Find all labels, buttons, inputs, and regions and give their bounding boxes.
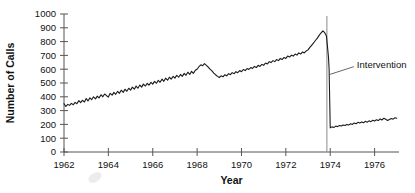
x-tick-label: 1966 (142, 159, 163, 170)
y-tick-label: 800 (40, 36, 56, 47)
x-axis-title: Year (220, 174, 242, 186)
x-tick-label: 1974 (320, 159, 341, 170)
x-tick-label: 1972 (275, 159, 296, 170)
x-tick-label: 1970 (231, 159, 252, 170)
y-tick-label: 400 (40, 91, 56, 102)
intervention-label: Intervention (357, 59, 407, 70)
y-tick-label: 900 (40, 22, 56, 33)
y-tick-label: 100 (40, 133, 56, 144)
annotation-leader-line (329, 67, 354, 75)
line-chart: 01002003004005006007008009001000 1962196… (0, 0, 415, 193)
y-axis-ticks: 01002003004005006007008009001000 (35, 8, 68, 157)
x-tick-label: 1964 (98, 159, 119, 170)
y-tick-label: 200 (40, 119, 56, 130)
y-tick-label: 700 (40, 50, 56, 61)
x-tick-label: 1976 (364, 159, 385, 170)
y-axis-title: Number of Calls (4, 43, 16, 124)
x-tick-label: 1968 (187, 159, 208, 170)
y-tick-label: 600 (40, 64, 56, 75)
data-series-line (64, 31, 397, 128)
y-tick-label: 1000 (35, 8, 56, 19)
y-tick-label: 0 (51, 146, 56, 157)
x-axis-ticks: 19621964196619681970197219741976 (53, 148, 385, 170)
x-tick-label: 1962 (53, 159, 74, 170)
y-tick-label: 300 (40, 105, 56, 116)
chart-container: 01002003004005006007008009001000 1962196… (0, 0, 415, 193)
y-tick-label: 500 (40, 77, 56, 88)
